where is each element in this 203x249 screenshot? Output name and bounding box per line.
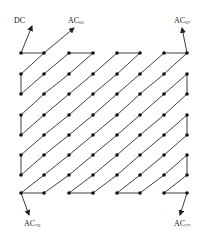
coefficient-dot <box>185 113 189 117</box>
coefficient-dot <box>115 51 119 55</box>
coefficient-dot <box>91 153 95 157</box>
label-arrow <box>44 28 74 53</box>
label-ac77: AC77 <box>174 220 190 228</box>
coefficient-dot <box>115 153 119 157</box>
coefficient-dot <box>185 153 189 157</box>
coefficient-dot <box>162 92 166 96</box>
coefficient-dot <box>138 51 142 55</box>
coefficient-dot <box>185 133 189 137</box>
coefficient-dot <box>67 191 71 195</box>
coefficient-dot <box>19 113 23 117</box>
coefficient-dot <box>162 133 166 137</box>
coefficient-dot <box>91 191 95 195</box>
label-arrow <box>182 28 187 53</box>
coefficient-dot <box>42 173 46 177</box>
label-ac70: AC70 <box>24 220 40 228</box>
label-arrow <box>180 193 187 215</box>
zigzag-path <box>21 53 187 193</box>
coefficient-dot <box>91 72 95 76</box>
coefficient-dot <box>19 133 23 137</box>
coefficient-dot <box>91 51 95 55</box>
coefficient-dot <box>42 191 46 195</box>
coefficient-dot <box>138 191 142 195</box>
coefficient-dot <box>138 153 142 157</box>
coefficient-dot <box>42 153 46 157</box>
coefficient-dot <box>19 72 23 76</box>
coefficient-dot <box>115 113 119 117</box>
coefficient-dot <box>115 191 119 195</box>
label-ac07: AC07 <box>174 17 190 25</box>
coefficient-dot <box>91 92 95 96</box>
coefficient-dot <box>138 133 142 137</box>
coefficient-dot <box>185 72 189 76</box>
coefficient-dot <box>91 173 95 177</box>
coefficient-dot <box>115 72 119 76</box>
coefficient-dot <box>138 92 142 96</box>
coefficient-dot <box>42 113 46 117</box>
coefficient-dot <box>19 51 23 55</box>
coefficient-dot <box>67 113 71 117</box>
coefficient-dot <box>185 173 189 177</box>
coefficient-dot <box>115 173 119 177</box>
label-arrow <box>21 26 32 53</box>
coefficient-dots <box>19 51 189 195</box>
coefficient-dot <box>162 72 166 76</box>
coefficient-dot <box>138 72 142 76</box>
coefficient-dot <box>67 92 71 96</box>
label-dc: DC <box>14 17 25 25</box>
coefficient-dot <box>42 72 46 76</box>
coefficient-dot <box>162 173 166 177</box>
coefficient-dot <box>19 92 23 96</box>
coefficient-dot <box>138 173 142 177</box>
coefficient-dot <box>162 51 166 55</box>
label-arrow <box>21 193 29 215</box>
coefficient-dot <box>19 153 23 157</box>
coefficient-dot <box>91 133 95 137</box>
coefficient-dot <box>67 153 71 157</box>
coefficient-dot <box>67 51 71 55</box>
label-ac01: AC01 <box>68 17 84 25</box>
coefficient-dot <box>162 113 166 117</box>
coefficient-dot <box>185 92 189 96</box>
coefficient-dot <box>115 92 119 96</box>
coefficient-dot <box>138 113 142 117</box>
coefficient-dot <box>162 191 166 195</box>
coefficient-dot <box>67 133 71 137</box>
coefficient-dot <box>19 173 23 177</box>
zigzag-polyline <box>21 53 187 193</box>
coefficient-dot <box>42 51 46 55</box>
coefficient-dot <box>19 191 23 195</box>
coefficient-dot <box>185 191 189 195</box>
zigzag-diagram <box>0 0 203 249</box>
coefficient-dot <box>67 72 71 76</box>
coefficient-dot <box>67 173 71 177</box>
coefficient-dot <box>42 133 46 137</box>
coefficient-dot <box>185 51 189 55</box>
coefficient-dot <box>91 113 95 117</box>
coefficient-dot <box>115 133 119 137</box>
coefficient-dot <box>162 153 166 157</box>
coefficient-dot <box>42 92 46 96</box>
